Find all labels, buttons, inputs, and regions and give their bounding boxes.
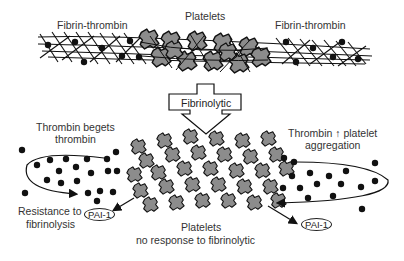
- label-platelets-bottom-line1: Platelets: [181, 221, 221, 233]
- label-platelets-bottom-line2: no response to fibrinolytic: [136, 234, 255, 246]
- pai-1-right: PAI-1: [301, 218, 332, 231]
- left-thrombin-loop: [19, 147, 134, 210]
- label-fibrin-thrombin-right: Fibrin-thrombin: [275, 19, 346, 31]
- pai-1-left: PAI-1: [84, 208, 115, 221]
- label-fibrin-thrombin-left: Fibrin-thrombin: [57, 19, 128, 31]
- label-thrombin-begets-line1: Thrombin begets: [36, 121, 115, 133]
- platelet-aggregate-top: [139, 29, 271, 73]
- label-platelets-top: Platelets: [185, 10, 225, 22]
- label-thrombin-begets-line2: thrombin: [55, 133, 96, 145]
- label-resistance-line1: Resistance to: [18, 205, 82, 217]
- platelet-lattice-bottom: [127, 129, 294, 212]
- label-thrombin-platelet-line2: aggregation: [305, 139, 360, 151]
- fibrinolytic-arrow: [169, 84, 241, 134]
- label-resistance-line2: fibrinolysis: [26, 218, 75, 230]
- label-thrombin-platelet-line1: Thrombin ↑ platelet: [288, 127, 377, 139]
- label-fibrinolytic: Fibrinolytic: [181, 97, 231, 109]
